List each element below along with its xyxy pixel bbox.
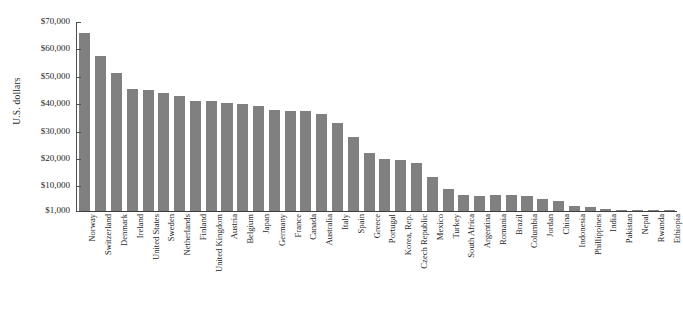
bar[interactable] [364,153,375,211]
bar[interactable] [474,196,485,211]
x-axis-tick-label: Ethiopia [673,214,682,243]
x-axis-label-slot: Columbia [519,212,535,311]
x-axis-label-slot: Indonesia [566,212,582,311]
x-axis-label-slot: Netherlands [172,212,188,311]
bar-slot [158,22,169,211]
x-axis-label-slot: Switzerland [93,212,109,311]
bar[interactable] [664,210,675,211]
bar[interactable] [285,111,296,211]
bar-slot [585,22,596,211]
y-axis-tick-mark [76,104,81,105]
bar[interactable] [111,73,122,211]
y-axis-title: U.S. dollars [12,56,22,146]
bar[interactable] [458,195,469,211]
bar[interactable] [553,201,564,211]
bar[interactable] [95,56,106,211]
bar-slot [364,22,375,211]
bar[interactable] [443,189,454,211]
bar[interactable] [395,160,406,211]
bar[interactable] [269,110,280,211]
x-axis-label-slot: Belgium [235,212,251,311]
bar-slot [316,22,327,211]
bar-slot [237,22,248,211]
x-axis-label-slot: United Kingdom [203,212,219,311]
x-axis-label-slot: Ethiopia [661,212,677,311]
x-axis-label-slot: Korea, Rep. [393,212,409,311]
x-axis-label-slot: Ireland [124,212,140,311]
bar[interactable] [190,101,201,211]
bar[interactable] [632,210,643,211]
x-axis-label-slot: United States [140,212,156,311]
x-axis-label-slot: Portugal [377,212,393,311]
x-axis-label-slot: Greece [361,212,377,311]
bar-slot [332,22,343,211]
x-axis-label-slot: South Africa [456,212,472,311]
y-axis-tick-mark [76,49,81,50]
bar-slot [537,22,548,211]
bar-slot [379,22,390,211]
bar[interactable] [411,163,422,211]
x-axis-label-slot: Spain [345,212,361,311]
bar[interactable] [490,195,501,211]
x-axis-label-slot: Canada [298,212,314,311]
y-axis-tick-mark [76,22,81,23]
bar[interactable] [221,103,232,211]
bar[interactable] [569,206,580,211]
bar[interactable] [143,90,154,211]
x-axis-label-slot: Japan [251,212,267,311]
y-axis-tick-mark [76,132,81,133]
bar[interactable] [237,104,248,211]
x-axis-label-slot: France [282,212,298,311]
bar-slot [553,22,564,211]
x-axis-label-slot: India [598,212,614,311]
bar[interactable] [332,123,343,211]
bar[interactable] [79,33,90,211]
x-axis-label-slot: Jordan [535,212,551,311]
bar-slot [569,22,580,211]
bar[interactable] [537,199,548,211]
bar[interactable] [506,195,517,211]
bar[interactable] [427,177,438,211]
bar-slot [300,22,311,211]
x-axis-label-slot: Romania [488,212,504,311]
bar-slot [221,22,232,211]
y-axis-tick-mark [76,186,81,187]
bar[interactable] [206,101,217,211]
bar[interactable] [127,89,138,211]
bar[interactable] [253,106,264,211]
y-axis-tick-label: $20,000 [22,154,70,163]
x-axis-label-slot: Brazil [503,212,519,311]
bar-slot [664,22,675,211]
plot-area [77,22,677,211]
bar[interactable] [600,209,611,211]
bar-slot [253,22,264,211]
bar[interactable] [158,93,169,211]
bar[interactable] [174,96,185,211]
bar-slot [111,22,122,211]
bar-slot [395,22,406,211]
bar-slot [348,22,359,211]
bar[interactable] [521,196,532,211]
bar[interactable] [379,159,390,211]
y-axis-tick-mark [76,159,81,160]
x-axis-label-slot: Czech Republic [409,212,425,311]
bar[interactable] [348,137,359,211]
x-axis-label-slot: Rwanda [645,212,661,311]
bar[interactable] [648,210,659,211]
x-axis-label-slot: Nepal [630,212,646,311]
bar[interactable] [316,114,327,211]
x-axis-label-slot: Mexico [424,212,440,311]
bar-slot [443,22,454,211]
bar-slot [190,22,201,211]
bar[interactable] [585,207,596,211]
y-axis-tick-label: $30,000 [22,127,70,136]
bar-slot [506,22,517,211]
bar[interactable] [300,111,311,211]
x-axis-label-slot: China [551,212,567,311]
y-axis-tick-label: $70,000 [22,17,70,26]
y-axis-tick-label: $60,000 [22,44,70,53]
bar[interactable] [616,210,627,211]
y-axis-tick-mark [76,211,81,212]
bar-slot [474,22,485,211]
bar-slot [127,22,138,211]
